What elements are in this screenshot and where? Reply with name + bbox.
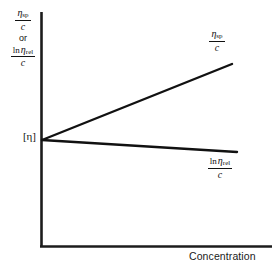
eta-subscript-rel: rel xyxy=(223,159,230,167)
y-axis-label-kraemer-numerator: lnηrel xyxy=(11,45,35,58)
y-axis-label: ηsp c or lnηrel c xyxy=(6,8,40,69)
kraemer-label-fraction: lnηrel c xyxy=(208,156,232,180)
y-axis-label-connector: or xyxy=(6,34,40,43)
eta-subscript-sp: sp xyxy=(22,11,28,19)
viscosity-extrapolation-chart: ηsp c or lnηrel c [η] ηsp c lnηrel c Con… xyxy=(0,0,279,268)
eta-subscript-rel: rel xyxy=(26,48,33,56)
huggins-label-denominator: c xyxy=(209,42,224,54)
chart-canvas xyxy=(0,0,279,268)
y-axis-label-huggins-numerator: ηsp xyxy=(15,8,30,21)
y-axis-label-huggins-denominator: c xyxy=(15,21,30,33)
huggins-line xyxy=(42,64,232,140)
huggins-series-label: ηsp c xyxy=(199,29,235,53)
eta-subscript-sp: sp xyxy=(216,32,222,40)
y-axis-label-kraemer-denominator: c xyxy=(11,57,35,69)
kraemer-line xyxy=(42,140,237,152)
y-axis-label-huggins-fraction: ηsp c xyxy=(15,8,30,32)
intrinsic-viscosity-intercept-label: [η] xyxy=(8,131,36,143)
kraemer-series-label: lnηrel c xyxy=(196,156,244,180)
huggins-label-numerator: ηsp xyxy=(209,29,224,42)
y-axis-label-kraemer-fraction: lnηrel c xyxy=(11,45,35,69)
kraemer-label-denominator: c xyxy=(208,169,232,181)
x-axis-label: Concentration xyxy=(189,250,256,262)
ln-operator: ln xyxy=(210,156,218,166)
huggins-label-fraction: ηsp c xyxy=(209,29,224,53)
kraemer-label-numerator: lnηrel xyxy=(208,156,232,169)
ln-operator: ln xyxy=(13,45,21,55)
